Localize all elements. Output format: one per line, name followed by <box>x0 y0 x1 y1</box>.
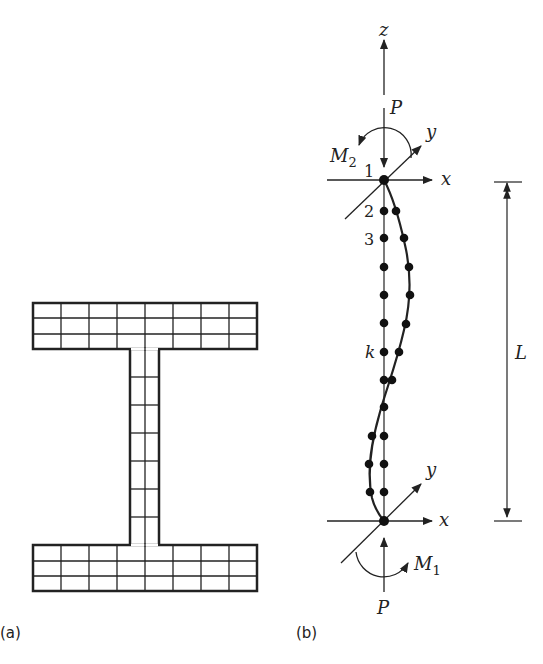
bottom-y-axis-label: y <box>425 459 437 480</box>
diagram-canvas: (a) <box>0 0 543 664</box>
node-3-label: 3 <box>364 230 374 249</box>
z-axis-label: z <box>378 19 389 40</box>
bottom-load-label: P <box>376 597 390 618</box>
top-x-axis-label: x <box>441 168 451 189</box>
moment-m1-arc <box>356 552 408 577</box>
caption-a: (a) <box>0 624 21 642</box>
top-y-axis-label: y <box>425 121 437 142</box>
node-2-label: 2 <box>364 202 374 221</box>
moment-m2-label: M2 <box>329 145 357 170</box>
moment-m1-label: M1 <box>413 553 441 578</box>
bottom-flange <box>33 545 257 591</box>
node-k-label: k <box>365 342 375 362</box>
node-1-label: 1 <box>364 162 374 181</box>
i-section-mesh <box>33 303 257 591</box>
length-label: L <box>514 342 527 363</box>
web <box>130 349 159 545</box>
column-element <box>327 40 522 592</box>
deformed-shape <box>370 180 410 521</box>
top-flange <box>33 303 257 349</box>
caption-b: (b) <box>296 624 317 642</box>
bottom-x-axis-label: x <box>439 509 449 530</box>
moment-m2-arc <box>359 128 411 158</box>
top-load-label: P <box>389 97 403 118</box>
